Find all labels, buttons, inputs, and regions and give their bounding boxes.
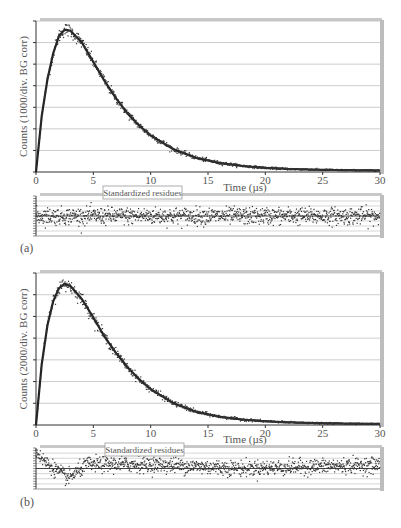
residual-legend-label: Standardized residues (105, 445, 184, 455)
y-axis-label: Counts (2000/div. BG corr) (17, 288, 30, 409)
figure: 051015202530Time (µs)Counts (1000/div. B… (0, 0, 401, 528)
residual-legend: Standardized residues (105, 443, 184, 456)
panel-label-b: (b) (20, 495, 34, 510)
x-tick-label: 25 (317, 427, 329, 439)
x-tick-label: 25 (317, 174, 329, 186)
x-tick-label: 30 (375, 427, 387, 439)
residual-legend-label: Standardized residues (103, 188, 182, 198)
panel-label-a: (a) (20, 241, 33, 256)
x-tick-label: 30 (375, 174, 387, 186)
figure-svg: 051015202530Time (µs)Counts (1000/div. B… (0, 0, 401, 528)
x-tick-label: 5 (91, 174, 97, 186)
plot-area (36, 273, 380, 425)
y-axis-label: Counts (1000/div. BG corr) (17, 36, 30, 157)
chart-panel-a: 051015202530Time (µs)Counts (1000/div. B… (17, 18, 386, 238)
residual-frame-shadow-right (380, 447, 384, 491)
x-tick-label: 5 (91, 427, 97, 439)
plot-area (36, 21, 380, 172)
frame-shadow-right (380, 272, 384, 427)
x-tick-label: 0 (33, 174, 39, 186)
residual-frame-shadow-right (380, 195, 384, 238)
frame-shadow-right (380, 20, 384, 174)
x-tick-label: 10 (145, 427, 157, 439)
x-axis-label: Time (µs) (223, 181, 267, 194)
x-axis-label: Time (µs) (223, 433, 267, 446)
x-tick-label: 0 (33, 427, 39, 439)
x-tick-label: 15 (203, 174, 215, 186)
chart-panel-b: 051015202530Time (µs)Counts (2000/div. B… (17, 270, 386, 491)
x-tick-label: 10 (145, 174, 157, 186)
residual-legend: Standardized residues (103, 186, 182, 199)
x-tick-label: 15 (203, 427, 215, 439)
